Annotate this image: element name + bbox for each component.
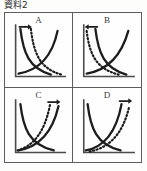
panel-b-plot: B <box>76 15 138 85</box>
panel-b-axes <box>84 25 134 77</box>
panel-b-demand-curve <box>95 29 126 75</box>
panel-d-chart <box>76 90 138 161</box>
panel-d-demand-curve <box>88 104 121 150</box>
panel-b-label: B <box>104 15 110 25</box>
panel-c-label: C <box>35 90 41 100</box>
panel-a-chart <box>8 15 69 85</box>
panel-c: C <box>5 88 73 163</box>
panel-d: D <box>73 88 141 163</box>
panel-b-supply-curve <box>87 31 129 74</box>
panel-a: A <box>5 13 73 88</box>
panel-c-arrow-head-icon <box>57 99 61 104</box>
panel-d-supply-shifted-curve <box>90 106 130 151</box>
figure-caption: 資料2 <box>4 0 28 11</box>
panel-c-plot: C <box>8 90 69 161</box>
panel-grid: A <box>5 13 141 162</box>
panel-d-arrow-head-icon <box>128 98 132 103</box>
panel-b-chart <box>76 15 138 85</box>
panel-b-arrow-head-icon <box>85 24 89 29</box>
panel-c-chart <box>8 90 69 161</box>
figure-frame: A <box>4 12 142 163</box>
panel-a-plot: A <box>8 15 69 85</box>
panel-b: B <box>73 13 141 88</box>
panel-d-plot: D <box>76 90 138 161</box>
figure-root: 資料2 A <box>0 0 147 171</box>
panel-a-label: A <box>35 15 42 25</box>
panel-d-label: D <box>104 90 111 100</box>
